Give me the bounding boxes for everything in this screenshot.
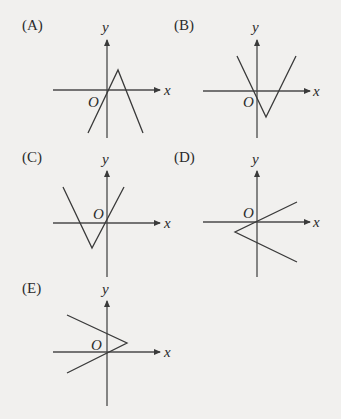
origin-label: O: [88, 94, 99, 110]
option-label: (C): [22, 149, 42, 166]
option-label: (D): [174, 149, 195, 166]
option-c-graph[interactable]: (C) y x O: [22, 149, 171, 277]
x-axis-label: x: [312, 83, 320, 99]
origin-label: O: [91, 337, 102, 353]
x-axis-label: x: [163, 82, 171, 98]
y-axis-label: y: [100, 281, 109, 297]
x-axis-label: x: [163, 215, 171, 231]
option-label: (B): [174, 17, 194, 34]
origin-label: O: [93, 206, 104, 222]
option-label: (A): [22, 17, 43, 34]
option-b-graph[interactable]: (B) y x O: [174, 17, 320, 138]
x-axis-label: x: [163, 344, 171, 360]
y-axis-label: y: [100, 151, 109, 167]
x-axis-label: x: [312, 214, 320, 230]
option-label: (E): [22, 280, 41, 297]
answer-choices-figure: (A) y x O (B) y x O (C) y x O (D) y x O: [0, 0, 341, 419]
origin-label: O: [243, 205, 254, 221]
origin-label: O: [243, 94, 254, 110]
option-e-graph[interactable]: (E) y x O: [22, 280, 171, 406]
y-axis-label: y: [250, 151, 259, 167]
option-d-graph[interactable]: (D) y x O: [174, 149, 320, 277]
y-axis-label: y: [100, 19, 109, 35]
option-a-graph[interactable]: (A) y x O: [22, 17, 171, 138]
y-axis-label: y: [250, 19, 259, 35]
